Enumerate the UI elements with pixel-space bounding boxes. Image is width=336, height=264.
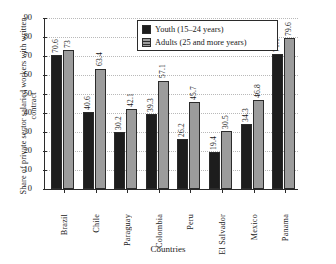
y-tick-label: 60 bbox=[10, 71, 32, 79]
bar-value-label: 19.4 bbox=[208, 136, 219, 150]
x-tick bbox=[159, 189, 160, 193]
bar-adult bbox=[95, 69, 106, 189]
y-tick-label: 70 bbox=[10, 52, 32, 60]
clipped-caption-fragment bbox=[8, 0, 208, 5]
bar-value-label: 46.8 bbox=[252, 84, 263, 98]
x-axis-line bbox=[44, 189, 298, 190]
legend-label-youth: Youth (15–24 years) bbox=[155, 25, 223, 34]
bar-adult bbox=[253, 100, 264, 189]
y-tick-label: 10 bbox=[10, 166, 32, 174]
x-tick bbox=[285, 189, 286, 193]
bar-youth bbox=[272, 54, 283, 189]
legend-swatch-adults-icon bbox=[142, 38, 151, 47]
y-tick bbox=[43, 37, 47, 38]
y-tick-label: 40 bbox=[10, 109, 32, 117]
legend-swatch-youth-icon bbox=[142, 25, 151, 34]
bar-adult bbox=[221, 131, 232, 189]
y-tick-label: 80 bbox=[10, 33, 32, 41]
y-tick-label: 50 bbox=[10, 90, 32, 98]
x-category-label: Mexico bbox=[250, 214, 259, 240]
bar-youth bbox=[177, 139, 188, 189]
y-tick bbox=[43, 113, 47, 114]
x-category-label: Peru bbox=[186, 214, 195, 230]
legend-label-adults: Adults (25 and more years) bbox=[155, 38, 247, 47]
bar-youth bbox=[241, 124, 252, 189]
x-category-label: Brazil bbox=[60, 214, 69, 235]
x-tick bbox=[254, 189, 255, 193]
x-category-label: Paraguay bbox=[123, 214, 132, 246]
bar-youth bbox=[209, 152, 220, 189]
x-category-label: Chile bbox=[92, 214, 101, 233]
legend-item-adults: Adults (25 and more years) bbox=[142, 36, 273, 49]
y-tick bbox=[43, 56, 47, 57]
bar-value-label: 30.2 bbox=[113, 116, 124, 130]
bar-youth bbox=[114, 132, 125, 189]
y-tick bbox=[43, 18, 47, 19]
y-tick-label: 0 bbox=[10, 185, 32, 193]
bar-value-label: 26.2 bbox=[176, 123, 187, 137]
y-tick bbox=[43, 151, 47, 152]
bar-value-label: 79.6 bbox=[283, 22, 294, 36]
bar-group: 40.663.4 bbox=[80, 18, 112, 189]
bar-value-label: 45.7 bbox=[188, 86, 199, 100]
y-tick bbox=[43, 94, 47, 95]
bar-adult bbox=[189, 102, 200, 189]
x-axis-title: Countries bbox=[0, 244, 336, 254]
y-tick-label: 30 bbox=[10, 128, 32, 136]
bar-value-label: 57.1 bbox=[157, 64, 168, 78]
bar-value-label: 39.3 bbox=[145, 98, 156, 112]
legend-item-youth: Youth (15–24 years) bbox=[142, 23, 273, 36]
bar-value-label: 63.4 bbox=[94, 52, 105, 66]
y-tick-label: 20 bbox=[10, 147, 32, 155]
y-tick bbox=[43, 132, 47, 133]
bar-value-label: 70.6 bbox=[50, 39, 61, 53]
x-category-label: Panama bbox=[281, 214, 290, 241]
x-tick bbox=[127, 189, 128, 193]
bar-value-label: 40.6 bbox=[82, 96, 93, 110]
chart-legend: Youth (15–24 years) Adults (25 and more … bbox=[137, 20, 278, 51]
bar-adult bbox=[63, 50, 74, 189]
bar-value-label: 73 bbox=[62, 40, 73, 48]
bar-chart-figure: Share of private sector salaried workers… bbox=[0, 0, 336, 264]
x-tick bbox=[64, 189, 65, 193]
bar-adult bbox=[284, 38, 295, 189]
x-tick bbox=[96, 189, 97, 193]
y-tick bbox=[43, 170, 47, 171]
bar-youth bbox=[83, 112, 94, 189]
y-tick bbox=[43, 75, 47, 76]
x-tick bbox=[222, 189, 223, 193]
y-tick bbox=[43, 189, 47, 190]
bar-value-label: 42.1 bbox=[125, 93, 136, 107]
x-tick bbox=[190, 189, 191, 193]
bar-youth bbox=[146, 114, 157, 189]
bar-value-label: 34.3 bbox=[240, 108, 251, 122]
bar-youth bbox=[51, 55, 62, 189]
bar-adult bbox=[126, 109, 137, 189]
bar-adult bbox=[158, 81, 169, 189]
bar-group: 70.673 bbox=[48, 18, 80, 189]
x-category-label: Colombia bbox=[155, 214, 164, 248]
y-tick-label: 90 bbox=[10, 14, 32, 22]
bar-value-label: 30.5 bbox=[220, 115, 231, 129]
y-axis-line bbox=[44, 18, 45, 190]
